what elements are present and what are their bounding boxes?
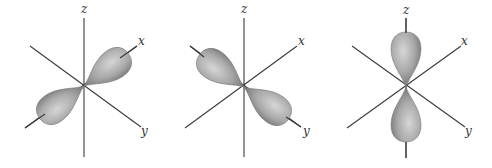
panel-pz: z x y xyxy=(347,3,472,158)
y-axis-back xyxy=(190,46,204,57)
lobe-positive-z xyxy=(391,32,421,87)
y-label: y xyxy=(464,124,472,138)
z-label: z xyxy=(240,2,248,16)
x-label: x xyxy=(461,34,468,48)
panel-px: z x y xyxy=(25,2,148,157)
panel-py: z x y xyxy=(185,2,310,157)
z-label: z xyxy=(80,2,88,16)
y-axis-tip xyxy=(286,117,301,127)
p-orbitals-diagram: z x y z x y z x y xyxy=(0,0,492,168)
y-label: y xyxy=(302,124,310,138)
lobe-negative-z xyxy=(391,87,421,142)
x-label: x xyxy=(138,34,145,48)
y-label: y xyxy=(140,124,148,138)
z-label: z xyxy=(402,3,410,17)
x-label: x xyxy=(298,34,305,48)
